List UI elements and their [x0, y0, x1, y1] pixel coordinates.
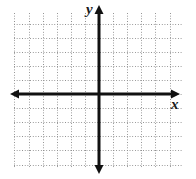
x-axis [10, 90, 180, 99]
x-axis-arrow-left-icon [10, 90, 19, 99]
coordinate-plane-figure: y x [0, 0, 196, 179]
y-axis-arrow-down-icon [95, 165, 104, 174]
y-axis [95, 5, 104, 174]
y-axis-arrow-up-icon [95, 5, 104, 14]
axes-overlay [0, 0, 196, 179]
y-axis-label: y [86, 2, 93, 17]
x-axis-label: x [171, 97, 179, 112]
